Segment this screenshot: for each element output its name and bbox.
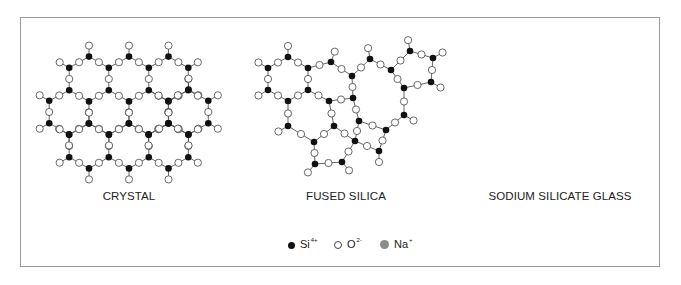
oxygen-atom (76, 92, 83, 99)
oxygen-atom (105, 142, 112, 149)
silicon-atom (165, 120, 172, 127)
oxygen-atom (95, 59, 102, 66)
oxygen-atom (95, 92, 102, 99)
oxygen-atom (400, 98, 407, 105)
silicon-atom (106, 65, 113, 72)
silicon-atom (165, 53, 172, 60)
oxygen-atom (294, 59, 301, 66)
silicon-atom (86, 53, 93, 60)
oxygen-atom (175, 159, 182, 166)
oxygen-circle-icon (334, 241, 342, 249)
silicon-atom (205, 120, 212, 127)
oxygen-atom (175, 59, 182, 66)
oxygen-atom (428, 66, 435, 73)
silicon-atom (383, 127, 390, 134)
oxygen-atom (397, 57, 404, 64)
oxygen-atom (56, 92, 63, 99)
oxygen-atom (194, 59, 201, 66)
oxygen-atom (369, 122, 376, 129)
oxygen-atom (316, 61, 323, 68)
silicon-atom (367, 56, 374, 63)
panel-label-fused-silica: FUSED SILICA (306, 190, 386, 202)
oxygen-atom (135, 92, 142, 99)
oxygen-atom (36, 125, 43, 132)
silicon-atom (356, 118, 363, 125)
silicon-atom (285, 123, 292, 130)
oxygen-atom (76, 59, 83, 66)
oxygen-atom (76, 126, 83, 133)
silicon-atom (46, 120, 53, 127)
oxygen-atom (341, 130, 348, 137)
oxygen-atom (345, 148, 352, 155)
oxygen-atom (145, 142, 152, 149)
oxygen-atom (194, 126, 201, 133)
silicon-atom (311, 139, 318, 146)
silicon-atom (285, 98, 292, 105)
oxygen-atom (165, 176, 172, 183)
oxygen-atom (264, 75, 271, 82)
oxygen-atom (125, 109, 132, 116)
oxygen-atom (85, 176, 92, 183)
oxygen-atom (56, 159, 63, 166)
silicon-atom (349, 73, 356, 80)
oxygen-atom (194, 92, 201, 99)
oxygen-atom (145, 75, 152, 82)
silicon-atom (185, 86, 192, 93)
oxygen-atom (311, 149, 318, 156)
oxygen-atom (304, 169, 311, 176)
oxygen-atom (95, 159, 102, 166)
silicon-atom (388, 67, 395, 74)
oxygen-atom (304, 75, 311, 82)
oxygen-atom (338, 65, 345, 72)
legend-charge: + (409, 237, 413, 243)
oxygen-atom (379, 137, 386, 144)
legend-symbol: Si (300, 238, 310, 250)
oxygen-atom (284, 42, 291, 49)
silicon-atom (407, 48, 414, 55)
oxygen-atom (165, 109, 172, 116)
oxygen-atom (377, 61, 384, 68)
oxygen-atom (437, 84, 444, 91)
silicon-atom (66, 65, 73, 72)
oxygen-atom (155, 59, 162, 66)
oxygen-atom (125, 42, 132, 49)
silicon-atom (376, 148, 383, 155)
oxygen-atom (214, 92, 221, 99)
oxygen-atom (66, 75, 73, 82)
oxygen-atom (274, 59, 281, 66)
silicon-atom (430, 55, 437, 62)
oxygen-atom (115, 92, 122, 99)
silicon-atom (106, 132, 113, 139)
silicon-atom (312, 161, 319, 168)
oxygen-atom (155, 159, 162, 166)
oxygen-atom (352, 106, 359, 113)
silicon-atom (305, 65, 312, 72)
silicon-atom (86, 98, 93, 105)
oxygen-atom (36, 92, 43, 99)
silicon-atom (66, 154, 73, 161)
oxygen-atom (410, 117, 417, 124)
silicon-atom (66, 87, 73, 94)
oxygen-atom (46, 108, 53, 115)
oxygen-atom (394, 75, 401, 82)
legend-symbol: Na (394, 238, 408, 250)
oxygen-atom (345, 167, 352, 174)
silicon-atom (126, 53, 133, 60)
oxygen-atom (194, 159, 201, 166)
sodium-dot-icon (380, 240, 389, 249)
oxygen-atom (353, 127, 360, 134)
oxygen-atom (165, 42, 172, 49)
legend-item-silicon: Si4+ (288, 237, 318, 250)
legend-symbol: O (347, 238, 356, 250)
silicon-atom (326, 98, 333, 105)
legend: Si4+ O2- Na+ (0, 237, 681, 253)
silicon-atom (126, 98, 133, 105)
oxygen-atom (76, 159, 83, 166)
silicon-atom (305, 87, 312, 94)
oxygen-atom (284, 110, 291, 117)
oxygen-atom (414, 81, 421, 88)
oxygen-atom (174, 125, 181, 132)
silicon-atom (165, 98, 172, 105)
oxygen-atom (404, 37, 411, 44)
oxygen-atom (185, 75, 192, 82)
